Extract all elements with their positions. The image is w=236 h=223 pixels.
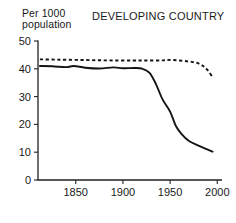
data-series-group [40,59,213,151]
x-tick-label: 1850 [64,186,88,198]
x-tick-label: 1900 [111,186,135,198]
axis-spines [38,41,222,181]
x-tick-label: 2000 [205,186,229,198]
x-tick-label: 1950 [158,186,182,198]
axes-group: 010203040501850190019502000 [19,35,230,198]
y-tick-label: 50 [19,35,31,47]
y-tick-label: 30 [19,91,31,103]
chart-plot-area: 010203040501850190019502000 [0,0,236,223]
y-tick-label: 10 [19,146,31,158]
series-line-death-rate [40,66,213,152]
y-tick-label: 20 [19,118,31,130]
y-tick-label: 0 [25,174,31,186]
chart-figure: Per 1000 population DEVELOPING COUNTRY 0… [0,0,236,223]
y-tick-label: 40 [19,63,31,75]
